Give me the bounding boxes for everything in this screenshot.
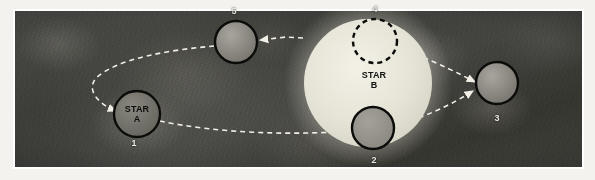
figure-root: STAR A STAR B 1 2 3 4 5 <box>0 0 595 180</box>
number-label-5: 5 <box>231 6 236 16</box>
star-a-label-line2: A <box>125 114 150 124</box>
number-label-4: 4 <box>372 4 377 14</box>
number-label-1: 1 <box>131 138 136 148</box>
number-label-3: 3 <box>494 113 499 123</box>
body-3[interactable] <box>476 62 518 104</box>
diagram-overlay <box>0 0 595 180</box>
star-a-label: STAR A <box>125 104 150 124</box>
star-b-label-line2: B <box>362 80 387 90</box>
star-a-label-line1: STAR <box>125 104 150 114</box>
star-b-label-line1: STAR <box>362 70 387 80</box>
star-b-label: STAR B <box>362 70 387 90</box>
body-5[interactable] <box>215 21 257 63</box>
number-label-2: 2 <box>371 155 376 165</box>
body-2[interactable] <box>352 107 394 149</box>
